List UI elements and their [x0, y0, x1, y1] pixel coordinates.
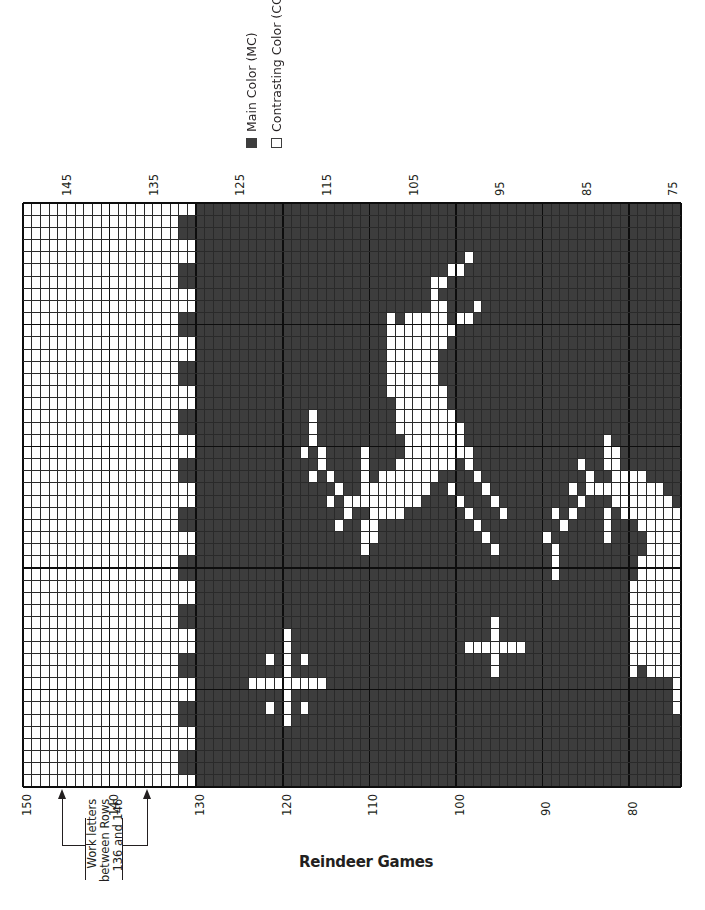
grid-line-horizontal: [23, 628, 681, 629]
grid-line-horizontal: [23, 409, 681, 410]
grid-line-horizontal: [23, 263, 681, 264]
grid-line-horizontal: [23, 227, 681, 228]
grid-line-horizontal: [23, 786, 681, 787]
grid-line-horizontal: [23, 458, 681, 459]
grid-line-horizontal: [23, 336, 681, 337]
grid-line-horizontal: [23, 641, 681, 642]
top-row-label: 115: [320, 174, 334, 196]
bottom-row-label: 80: [626, 801, 640, 816]
grid-line-horizontal: [23, 567, 681, 568]
grid-line-horizontal: [23, 762, 681, 763]
bottom-row-label: 100: [453, 794, 467, 816]
bracket-line-bottom-left: [62, 845, 86, 846]
bottom-row-label: 110: [366, 794, 380, 816]
legend-item-contrast-color: Contrasting Color (CC): [269, 0, 284, 148]
grid-line-horizontal: [23, 446, 681, 447]
main-color-swatch-icon: [246, 138, 257, 148]
grid-line-horizontal: [23, 507, 681, 508]
legend-label-main: Main Color (MC): [244, 32, 259, 132]
grid-line-horizontal: [23, 774, 681, 775]
top-row-label: 105: [407, 174, 421, 196]
bracket-line-right: [147, 797, 148, 846]
grid-line-horizontal: [23, 519, 681, 520]
grid-line-horizontal: [23, 689, 681, 690]
chart-title: Reindeer Games: [299, 853, 433, 871]
grid-line-horizontal: [23, 239, 681, 240]
grid-line-horizontal: [23, 288, 681, 289]
grid-line-horizontal: [23, 543, 681, 544]
bottom-row-label: 120: [280, 794, 294, 816]
grid-line-horizontal: [23, 665, 681, 666]
grid-line-horizontal: [23, 385, 681, 386]
top-row-label: 85: [580, 181, 594, 196]
bottom-row-label: 130: [193, 794, 207, 816]
grid-line-horizontal: [23, 701, 681, 702]
annotation-line-3: 136 and 146: [112, 799, 125, 882]
top-row-label: 145: [60, 174, 74, 196]
top-row-label: 135: [147, 174, 161, 196]
grid-line-horizontal: [23, 300, 681, 301]
grid-line-horizontal: [23, 592, 681, 593]
grid-line-horizontal: [23, 361, 681, 362]
grid-line-horizontal: [23, 738, 681, 739]
top-row-label: 75: [666, 181, 680, 196]
bracket-line-bottom-right: [122, 845, 147, 846]
grid-line-horizontal: [23, 677, 681, 678]
grid-line-horizontal: [23, 470, 681, 471]
grid-line-horizontal: [23, 373, 681, 374]
grid-line-horizontal: [23, 324, 681, 325]
grid-line-horizontal: [23, 604, 681, 605]
grid-line-horizontal: [23, 495, 681, 496]
bracket-line-left: [62, 797, 63, 846]
grid-line-horizontal: [23, 555, 681, 556]
grid-line-horizontal: [23, 349, 681, 350]
grid-line-horizontal: [23, 434, 681, 435]
grid-line-horizontal: [23, 422, 681, 423]
legend-label-contrast: Contrasting Color (CC): [269, 0, 284, 132]
grid-line-horizontal: [23, 276, 681, 277]
grid-line-horizontal: [23, 580, 681, 581]
grid-line-horizontal: [23, 616, 681, 617]
knitting-chart-grid: [23, 203, 681, 787]
bottom-row-label: 90: [539, 801, 553, 816]
grid-line-horizontal: [23, 531, 681, 532]
grid-line-horizontal: [23, 202, 681, 203]
annotation-text: Work letters between Rows 136 and 146: [86, 799, 125, 882]
legend: Main Color (MC) Contrasting Color (CC): [236, 0, 296, 150]
grid-line-horizontal: [23, 397, 681, 398]
top-row-label: 125: [233, 174, 247, 196]
grid-line-horizontal: [23, 653, 681, 654]
legend-item-main-color: Main Color (MC): [244, 32, 259, 148]
top-row-label: 95: [493, 181, 507, 196]
grid-line-horizontal: [23, 482, 681, 483]
grid-line-horizontal: [23, 312, 681, 313]
bottom-row-label: 150: [20, 794, 34, 816]
grid-line-horizontal: [23, 726, 681, 727]
grid-line-horizontal: [23, 215, 681, 216]
grid-line-horizontal: [23, 714, 681, 715]
grid-line-horizontal: [23, 251, 681, 252]
contrast-color-swatch-icon: [271, 138, 282, 148]
grid-line-horizontal: [23, 750, 681, 751]
